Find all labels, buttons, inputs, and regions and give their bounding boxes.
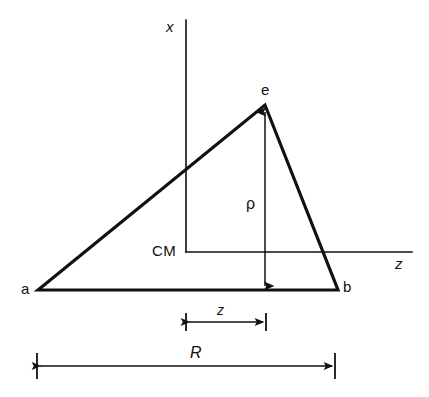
vertex-label-e: e (261, 82, 269, 97)
rho-measurement-label: ρ (246, 196, 255, 212)
triangle-shape (38, 105, 338, 290)
x-axis-label: x (166, 19, 174, 34)
z-offset-measurement-label: z (217, 303, 224, 317)
figure-root: x z CM a b e ρ z R (0, 0, 429, 397)
diagram-canvas (0, 0, 429, 397)
axis-group (186, 20, 412, 252)
R-dimension (37, 353, 335, 379)
triangle-outline (38, 105, 338, 290)
vertex-label-b: b (343, 279, 351, 294)
vertex-label-a: a (21, 281, 29, 296)
center-of-mass-label: CM (152, 243, 176, 258)
z-dimension (186, 313, 266, 331)
z-axis-label: z (395, 256, 403, 271)
R-span-measurement-label: R (190, 345, 202, 361)
